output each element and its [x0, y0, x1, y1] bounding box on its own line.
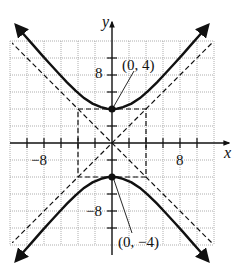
y-axis-label: y: [100, 13, 110, 31]
tick-label-x-pos8: 8: [176, 152, 184, 168]
tick-label-y-pos8: 8: [95, 65, 103, 81]
vertex-bottom-point: [108, 173, 115, 180]
hyperbola-graph: y x −8 8 8 −8 (0, 4) (0, −4): [0, 0, 239, 268]
vertex-bottom-label: (0, −4): [118, 234, 159, 251]
x-axis-label: x: [223, 144, 231, 161]
vertex-top-point: [108, 105, 115, 112]
tick-label-y-neg8: −8: [86, 203, 102, 219]
leader-line-top: [114, 71, 134, 106]
tick-label-x-neg8: −8: [31, 152, 47, 168]
vertex-top-label: (0, 4): [122, 57, 155, 74]
